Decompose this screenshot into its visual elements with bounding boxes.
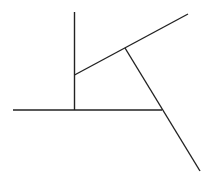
diagram-background (0, 0, 209, 180)
line-diagram (0, 0, 209, 180)
